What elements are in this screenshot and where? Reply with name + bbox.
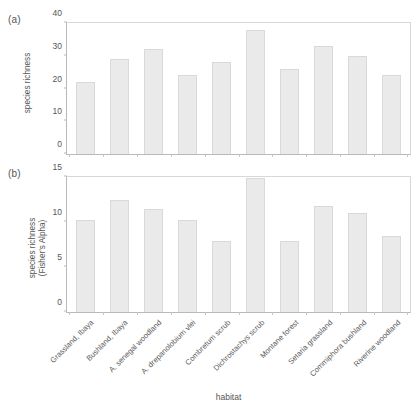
x-tick-slot xyxy=(171,154,205,158)
x-tick-slot xyxy=(340,312,374,316)
bar xyxy=(382,75,401,154)
bar-slot xyxy=(340,177,374,312)
bar-slot xyxy=(374,177,408,312)
bar xyxy=(110,200,129,312)
x-tick-slot xyxy=(306,154,340,158)
bar xyxy=(382,236,401,312)
bar-slot xyxy=(239,23,273,154)
y-tick-mark xyxy=(64,311,67,312)
bar-slot xyxy=(272,23,306,154)
bar xyxy=(314,46,333,154)
x-tick-slot xyxy=(103,312,137,316)
panel-a: (a) species richness 010203040 xyxy=(0,0,417,165)
bar xyxy=(212,62,231,154)
y-tick-mark xyxy=(64,176,67,177)
x-tick-mark xyxy=(374,312,375,315)
x-tick-slot xyxy=(171,312,205,316)
bar-slot xyxy=(205,23,239,154)
y-tick-label: 0 xyxy=(28,297,67,307)
x-tick-slot xyxy=(374,154,408,158)
y-tick-label: 10 xyxy=(28,207,67,217)
x-tick-mark xyxy=(340,312,341,315)
bar-slot xyxy=(69,23,103,154)
bar xyxy=(76,220,95,312)
figure-bar-chart-species-richness: (a) species richness 010203040 (b) speci… xyxy=(0,0,417,420)
bar xyxy=(110,59,129,154)
x-axis-title-text: habitat xyxy=(216,392,242,402)
panel-b-tag: (b) xyxy=(8,168,21,179)
x-tick-mark xyxy=(171,312,172,315)
bar-slot xyxy=(239,177,273,312)
x-tick-slot xyxy=(137,312,171,316)
x-tick-slot xyxy=(205,154,239,158)
y-tick-mark xyxy=(64,221,67,222)
y-tick-label: 5 xyxy=(28,252,67,262)
y-tick-label: 30 xyxy=(28,41,67,51)
panel-a-bars xyxy=(67,23,410,154)
panel-a-tag: (a) xyxy=(8,14,21,25)
panel-a-plot-area: 010203040 xyxy=(66,22,411,155)
bar-slot xyxy=(171,177,205,312)
bar-slot xyxy=(340,23,374,154)
bar xyxy=(212,241,231,312)
x-tick-mark xyxy=(272,154,273,157)
x-tick-slot xyxy=(69,154,103,158)
x-tick-mark xyxy=(374,154,375,157)
bar-slot xyxy=(306,23,340,154)
y-tick-label: 0 xyxy=(28,139,67,149)
bar-slot xyxy=(306,177,340,312)
x-tick-slot xyxy=(374,312,408,316)
x-tick-mark xyxy=(137,154,138,157)
x-tick-mark xyxy=(69,154,70,157)
bar xyxy=(144,49,163,154)
bar-slot xyxy=(69,177,103,312)
bar-slot xyxy=(205,177,239,312)
x-tick-slot xyxy=(239,312,273,316)
x-tick-mark xyxy=(407,312,408,315)
bar-slot xyxy=(103,23,137,154)
panel-b-bars xyxy=(67,177,410,312)
x-tick-slot xyxy=(103,154,137,158)
y-tick-label: 15 xyxy=(28,162,67,172)
x-tick-mark xyxy=(205,312,206,315)
y-tick-label: 10 xyxy=(28,106,67,116)
x-tick-mark xyxy=(306,312,307,315)
panel-b-x-tick-marks xyxy=(67,312,410,316)
bar-slot xyxy=(272,177,306,312)
x-tick-mark xyxy=(239,312,240,315)
bar xyxy=(348,56,367,154)
bar xyxy=(246,30,265,154)
x-axis-title: habitat xyxy=(0,392,417,402)
panel-b: (b) species richness (Fisher's Alpha) 05… xyxy=(0,160,417,320)
x-tick-mark xyxy=(340,154,341,157)
y-tick-label: 20 xyxy=(28,74,67,84)
x-tick-slot xyxy=(306,312,340,316)
bar xyxy=(246,178,265,312)
bar-slot xyxy=(374,23,408,154)
bar-slot xyxy=(103,177,137,312)
x-tick-mark xyxy=(407,154,408,157)
bar xyxy=(280,69,299,154)
x-tick-mark xyxy=(69,312,70,315)
bar xyxy=(280,241,299,312)
x-tick-slot xyxy=(272,154,306,158)
x-axis-category-labels: Grassland, IbayaBushland, IbayaA. senega… xyxy=(66,318,411,388)
bar-slot xyxy=(137,23,171,154)
x-tick-slot xyxy=(272,312,306,316)
bar xyxy=(144,209,163,312)
bar xyxy=(178,220,197,312)
x-tick-mark xyxy=(137,312,138,315)
bar xyxy=(348,213,367,312)
y-tick-mark xyxy=(64,266,67,267)
x-tick-mark xyxy=(171,154,172,157)
x-tick-slot xyxy=(69,312,103,316)
x-tick-mark xyxy=(306,154,307,157)
bar xyxy=(76,82,95,154)
x-tick-mark xyxy=(103,154,104,157)
x-tick-mark xyxy=(103,312,104,315)
panel-a-x-tick-marks xyxy=(67,154,410,158)
x-tick-mark xyxy=(239,154,240,157)
bar-slot xyxy=(171,23,205,154)
y-tick-mark xyxy=(64,22,67,23)
bar xyxy=(178,75,197,154)
